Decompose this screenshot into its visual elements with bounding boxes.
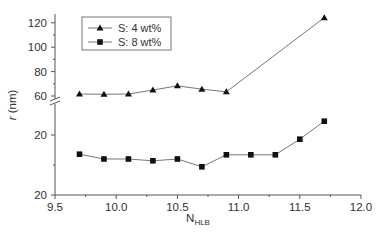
svg-text:20: 20 — [34, 129, 47, 141]
legend: S: 4 wt%S: 8 wt% — [82, 17, 171, 50]
chart-figure: 608010012020209.510.010.511.011.512.0 S:… — [0, 0, 383, 238]
svg-text:S: 4 wt%: S: 4 wt% — [118, 22, 162, 34]
svg-text:S: 8 wt%: S: 8 wt% — [118, 36, 162, 48]
svg-text:100: 100 — [28, 41, 47, 53]
svg-text:12.0: 12.0 — [350, 201, 372, 213]
svg-text:10.0: 10.0 — [105, 201, 127, 213]
svg-text:60: 60 — [34, 90, 47, 102]
svg-text:20: 20 — [34, 189, 47, 201]
svg-text:11.5: 11.5 — [289, 201, 311, 213]
svg-text:9.5: 9.5 — [47, 201, 63, 213]
svg-text:11.0: 11.0 — [228, 201, 250, 213]
svg-text:120: 120 — [28, 17, 47, 29]
series-8wt — [77, 118, 327, 169]
axes: 608010012020209.510.010.511.011.512.0 — [28, 14, 372, 213]
x-axis-title: NHLB — [186, 212, 210, 227]
y-axis-title: r (nm) — [6, 90, 18, 121]
svg-text:80: 80 — [34, 66, 47, 78]
